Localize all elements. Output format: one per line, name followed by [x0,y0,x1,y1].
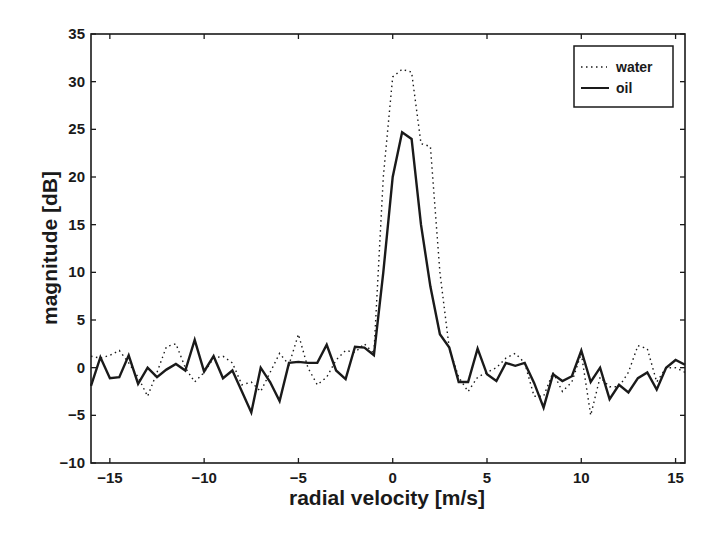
x-tick-label: −5 [290,469,307,486]
y-axis-label: magnitude [dB] [38,171,61,325]
y-tick-label: 10 [68,263,85,280]
y-tick-label: 5 [77,311,85,328]
y-tick-label: 25 [68,120,85,137]
series-oil-line [91,132,685,412]
x-tick-label: −15 [97,469,122,486]
x-tick-label: 15 [667,469,684,486]
x-tick-label: 0 [389,469,397,486]
legend-oil-label: oil [616,80,632,96]
x-tick-label: 10 [573,469,590,486]
y-tick-label: 30 [68,73,85,90]
y-tick-label: −10 [60,454,85,471]
x-axis-label: radial velocity [m/s] [289,486,485,509]
series-layer [91,69,685,415]
y-tick-label: 0 [77,359,85,376]
y-tick-label: 20 [68,168,85,185]
legend: water oil [574,46,673,107]
legend-water-label: water [615,59,653,75]
series-water-line [91,69,685,415]
y-tick-label: −5 [68,406,85,423]
chart: −15−10−5051015−10−505101520253035 radial… [0,0,715,537]
x-tick-label: −10 [191,469,216,486]
y-tick-label: 15 [68,216,85,233]
legend-box [574,46,673,107]
y-tick-label: 35 [68,25,85,42]
x-tick-label: 5 [483,469,491,486]
